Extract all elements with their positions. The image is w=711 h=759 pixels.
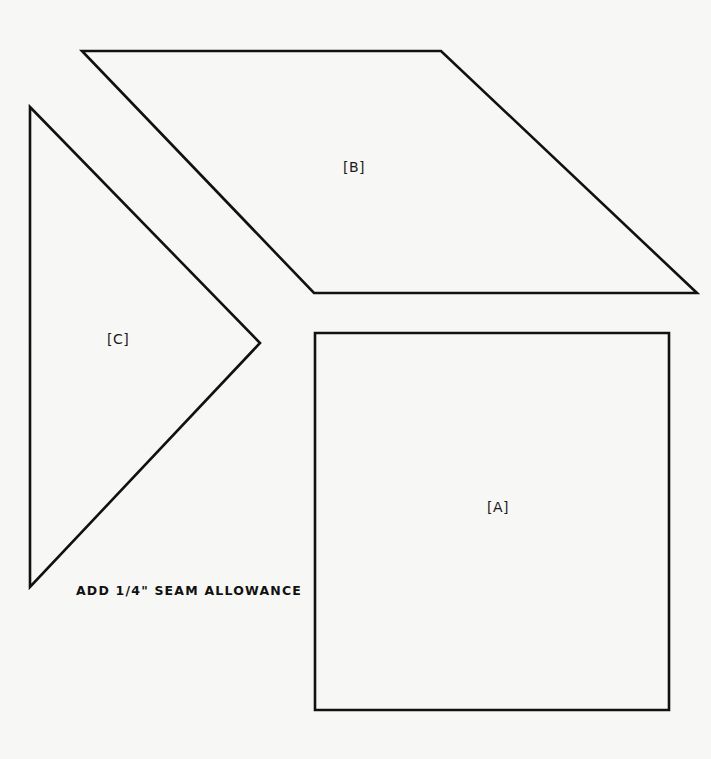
piece-b-label: [B] <box>343 159 365 175</box>
seam-allowance-note: ADD 1/4" SEAM ALLOWANCE <box>76 583 302 598</box>
piece-c-label: [C] <box>107 331 129 347</box>
pattern-sheet: [B] [C] [A] ADD 1/4" SEAM ALLOWANCE <box>0 0 711 759</box>
piece-a-label: [A] <box>487 499 509 515</box>
piece-c-outline <box>30 107 260 587</box>
piece-a-outline <box>315 333 669 710</box>
pattern-outlines <box>0 0 711 759</box>
